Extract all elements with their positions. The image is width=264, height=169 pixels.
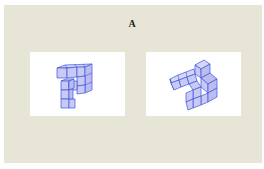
stimulus-right xyxy=(146,52,241,116)
cube-figure-right-icon xyxy=(146,52,241,116)
cube-figure-left-icon xyxy=(30,52,125,116)
stimulus-left xyxy=(30,52,125,116)
figure-label: A xyxy=(0,18,264,29)
